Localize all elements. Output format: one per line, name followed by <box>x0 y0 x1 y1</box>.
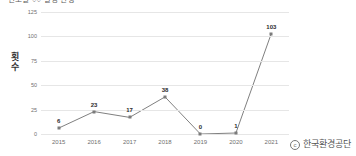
x-axis-tick-label: 2017 <box>123 139 136 146</box>
gridline <box>41 61 289 62</box>
plot-area: 0255075100125 20152016201720182019202020… <box>41 12 289 134</box>
gridline <box>41 36 289 37</box>
x-axis-tick-label: 2021 <box>265 139 278 146</box>
series-line <box>41 12 289 134</box>
data-point-marker <box>270 32 273 35</box>
gridline <box>41 12 289 13</box>
data-point-label: 17 <box>126 107 133 114</box>
y-axis-tick-label: 25 <box>31 107 37 113</box>
data-point-label: 23 <box>91 102 98 109</box>
watermark-owner: 한국환경공단 <box>303 139 351 150</box>
gridline <box>41 110 289 111</box>
chart-title: 연도별 ○○ 발생 현황 <box>8 0 208 4</box>
y-axis-tick-label: 75 <box>31 58 37 64</box>
data-point-marker <box>93 110 96 113</box>
y-axis-tick-label: 100 <box>28 33 37 39</box>
y-axis-label-char-1: 횟 <box>8 52 21 62</box>
x-axis-tick-label: 2018 <box>158 139 171 146</box>
data-point-marker <box>164 95 167 98</box>
x-axis-tick-label: 2015 <box>52 139 65 146</box>
watermark: c 한국환경공단 <box>290 139 351 150</box>
data-point-marker <box>199 133 202 136</box>
data-point-marker <box>234 132 237 135</box>
gridline <box>41 134 289 135</box>
y-axis-tick-label: 0 <box>34 131 37 137</box>
y-axis-label: 횟 수 <box>8 52 21 72</box>
data-point-label: 0 <box>199 124 202 131</box>
y-axis-tick-label: 50 <box>31 82 37 88</box>
x-axis-tick-label: 2016 <box>87 139 100 146</box>
y-axis-label-char-2: 수 <box>8 62 21 72</box>
data-point-label: 1 <box>234 123 237 130</box>
data-point-marker <box>57 127 60 130</box>
data-point-label: 6 <box>57 118 60 125</box>
x-axis-tick-label: 2019 <box>194 139 207 146</box>
data-point-label: 103 <box>266 24 276 31</box>
copyright-icon: c <box>290 140 300 150</box>
chart-figure: 연도별 ○○ 발생 현황 횟 수 0255075100125 201520162… <box>0 0 356 156</box>
y-axis-tick-label: 125 <box>28 9 37 15</box>
data-point-marker <box>128 116 131 119</box>
x-axis-tick-label: 2020 <box>229 139 242 146</box>
data-point-label: 38 <box>162 87 169 94</box>
